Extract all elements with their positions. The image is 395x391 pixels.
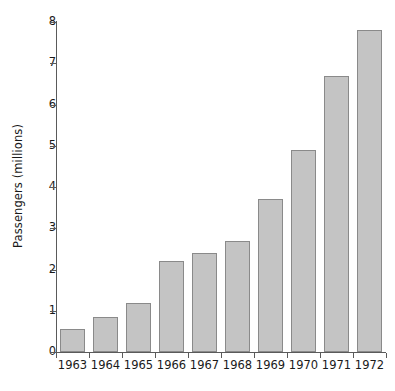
x-axis-tick-1968 xyxy=(254,353,255,358)
bar-chart-figure: Passengers (millions) 012345678 19631964… xyxy=(0,0,395,391)
y-axis-tick-1 xyxy=(50,311,56,312)
x-axis-tick-origin xyxy=(56,353,57,358)
bar-1966 xyxy=(159,261,184,352)
y-axis-tick-8 xyxy=(50,22,56,23)
bar-1964 xyxy=(93,317,118,352)
bar-1963 xyxy=(60,329,85,352)
x-axis-tick-label-1970: 1970 xyxy=(289,360,318,372)
x-axis-tick-label-1971: 1971 xyxy=(322,360,351,372)
x-axis-tick-label-1964: 1964 xyxy=(91,360,120,372)
x-axis-tick-label-1972: 1972 xyxy=(355,360,384,372)
x-axis-tick-label-1965: 1965 xyxy=(124,360,153,372)
y-axis-tick-3 xyxy=(50,228,56,229)
x-axis-tick-1971 xyxy=(353,353,354,358)
y-axis-tick-labels: 012345678 xyxy=(0,0,56,391)
y-axis-tick-6 xyxy=(50,105,56,106)
x-axis-tick-1972 xyxy=(386,353,387,358)
x-axis-tick-label-1967: 1967 xyxy=(190,360,219,372)
y-axis-tick-5 xyxy=(50,146,56,147)
y-axis-tick-2 xyxy=(50,270,56,271)
x-axis-tick-label-1968: 1968 xyxy=(223,360,252,372)
x-axis-tick-label-1963: 1963 xyxy=(58,360,87,372)
x-axis-tick-label-1966: 1966 xyxy=(157,360,186,372)
y-axis-tick-7 xyxy=(50,63,56,64)
x-axis-tick-label-1969: 1969 xyxy=(256,360,285,372)
bar-1972 xyxy=(357,30,382,352)
x-axis-tick-1964 xyxy=(122,353,123,358)
x-axis-tick-1969 xyxy=(287,353,288,358)
x-axis-tick-1963 xyxy=(89,353,90,358)
bar-1967 xyxy=(192,253,217,352)
bar-1969 xyxy=(258,199,283,352)
plot-area xyxy=(56,22,388,352)
x-axis-tick-1965 xyxy=(155,353,156,358)
bar-1965 xyxy=(126,303,151,353)
x-axis-tick-1966 xyxy=(188,353,189,358)
y-axis-tick-4 xyxy=(50,187,56,188)
bar-1971 xyxy=(324,76,349,352)
bar-1970 xyxy=(291,150,316,352)
bar-1968 xyxy=(225,241,250,352)
x-axis-tick-1970 xyxy=(320,353,321,358)
x-axis-tick-labels: 1963196419651966196719681969197019711972 xyxy=(56,360,388,380)
x-axis-tick-1967 xyxy=(221,353,222,358)
